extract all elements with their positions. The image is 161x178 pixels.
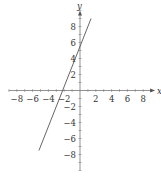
x-tick-label: 2 (93, 94, 98, 104)
x-tick-label: −8 (11, 94, 24, 104)
plotted-line (39, 19, 91, 151)
x-tick-label: −4 (42, 94, 55, 104)
y-tick-label: −4 (63, 118, 76, 128)
coordinate-plane: x y −8−6−4−22468−8−6−4−22468 (0, 0, 161, 178)
y-tick-label: −2 (63, 102, 76, 112)
x-tick-label: −6 (26, 94, 39, 104)
y-tick-label: 6 (71, 38, 76, 48)
y-axis-label: y (76, 1, 82, 11)
x-axis-label: x (157, 86, 161, 96)
y-tick-label: 8 (71, 22, 76, 32)
x-tick-label: 6 (125, 94, 130, 104)
y-tick-label: −8 (63, 150, 76, 160)
x-axis-arrow-icon (150, 89, 155, 93)
y-tick-label: −6 (63, 134, 76, 144)
y-tick-label: 2 (71, 70, 76, 80)
x-tick-label: 8 (140, 94, 145, 104)
x-tick-label: 4 (109, 94, 114, 104)
y-axis-arrow-icon (78, 11, 82, 16)
